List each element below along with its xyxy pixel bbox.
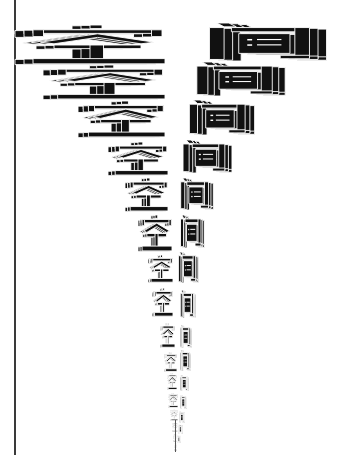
glyph-jian: 间 bbox=[180, 178, 214, 210]
glyph-kong: 空 bbox=[43, 65, 165, 100]
left-vertical-rule bbox=[14, 0, 16, 455]
vanishing-tip-line bbox=[175, 420, 176, 452]
glyph-jian: 间 bbox=[180, 325, 192, 348]
glyph-kong: 空 bbox=[164, 352, 177, 372]
glyph-kong: 空 bbox=[148, 255, 173, 283]
glyph-kong: 空 bbox=[125, 178, 168, 212]
glyph-jian: 间 bbox=[178, 424, 183, 434]
glyph-jian: 间 bbox=[180, 395, 187, 409]
glyph-jian: 间 bbox=[180, 350, 191, 371]
glyph-kong: 空 bbox=[160, 323, 175, 348]
glyph-kong: 空 bbox=[170, 409, 178, 421]
glyph-jian: 间 bbox=[182, 140, 233, 173]
glyph-kong: 空 bbox=[167, 373, 177, 390]
glyph-kong: 空 bbox=[152, 288, 173, 317]
glyph-jian: 间 bbox=[177, 435, 181, 443]
glyph-kong: 空 bbox=[168, 393, 178, 408]
glyph-kong: 空 bbox=[108, 142, 168, 176]
glyph-jian: 间 bbox=[188, 100, 256, 135]
glyph-jian: 间 bbox=[180, 215, 205, 248]
glyph-kong: 空 bbox=[78, 101, 165, 138]
glyph-jian: 间 bbox=[180, 375, 189, 391]
glyph-kong: 空 bbox=[138, 215, 172, 252]
glyph-jian: 间 bbox=[180, 290, 196, 318]
glyph-jian: 间 bbox=[195, 62, 287, 96]
glyph-jian: 间 bbox=[179, 411, 185, 423]
glyph-jian: 间 bbox=[207, 23, 329, 61]
artwork-canvas: 空 空 空 空 空 空 空 空 空 空 空 空 空 空 空 空 间 间 间 间 … bbox=[0, 0, 355, 455]
glyph-kong: 空 bbox=[15, 25, 165, 65]
glyph-jian: 间 bbox=[178, 252, 199, 283]
